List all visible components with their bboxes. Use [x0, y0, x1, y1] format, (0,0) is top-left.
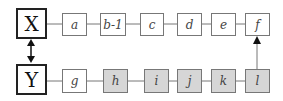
node-j: j — [177, 69, 202, 93]
arrow-down-icon — [27, 56, 35, 63]
node-a: a — [62, 13, 87, 36]
node-d: d — [177, 13, 202, 36]
node-f: f — [245, 13, 270, 36]
arrow-up-icon — [253, 36, 261, 44]
node-h: h — [103, 69, 128, 93]
node-c: c — [140, 13, 164, 36]
node-y: Y — [16, 64, 47, 95]
arrow-up-icon — [27, 39, 35, 46]
node-g: g — [62, 69, 87, 93]
node-l: l — [245, 69, 270, 93]
node-i: i — [144, 69, 169, 93]
node-k: k — [211, 69, 236, 93]
node-x: X — [16, 8, 47, 39]
node-e: e — [211, 13, 236, 36]
node-b-1: b-1 — [100, 13, 126, 36]
